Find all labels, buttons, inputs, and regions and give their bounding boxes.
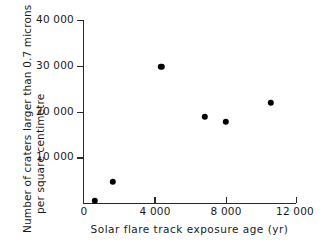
x-tick-label-8000: 8 000 [210,205,241,217]
x-axis-line [83,203,296,204]
y-tick-20000 [77,112,83,113]
x-tick-0 [83,197,84,203]
y-tick-label-20000: 20 000 [12,105,74,117]
data-point [222,119,228,125]
x-tick-label-4000: 4 000 [139,205,170,217]
y-tick-label-40000: 40 000 [12,13,74,25]
x-tick-12000 [296,197,297,203]
y-axis-title: Number of craters larger than 0.7 micron… [0,0,40,245]
x-tick-4000 [154,197,155,203]
y-tick-40000 [77,20,83,21]
y-tick-label-30000: 30 000 [12,59,74,71]
data-point [158,64,164,70]
data-point [201,114,207,120]
y-tick-10000 [77,157,83,158]
y-axis-line [83,20,84,204]
y-tick-label-10000: 10 000 [12,150,74,162]
x-axis-title: Solar flare track exposure age (yr) [83,223,296,235]
y-tick-30000 [77,66,83,67]
x-tick-8000 [226,197,227,203]
x-tick-label-0: 0 [81,205,88,217]
data-point [268,99,274,105]
scatter-chart-figure: Number of craters larger than 0.7 micron… [0,0,329,245]
y-axis-title-line-1: Number of craters larger than 0.7 micron… [21,5,33,233]
clipped-edge-glyphs [1,176,121,182]
x-tick-label-12000: 12 000 [276,205,314,217]
